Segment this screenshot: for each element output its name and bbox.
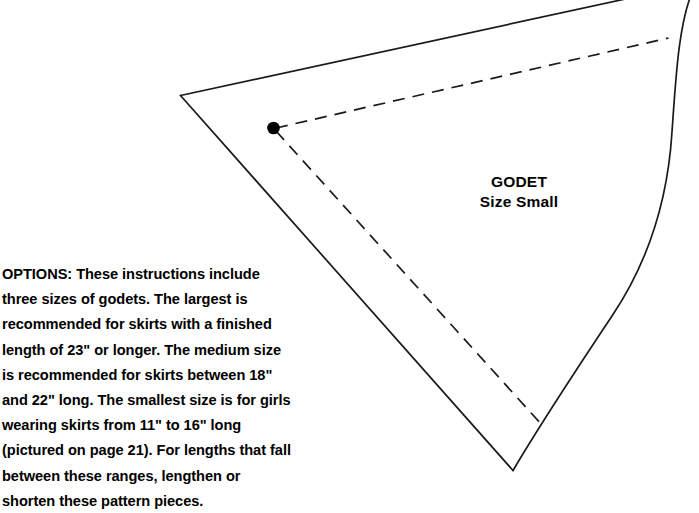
options-instructions-paragraph: OPTIONS: These instructions include thre… [2,262,294,513]
pattern-cutting-line-top-edge [181,0,699,96]
options-instructions-text: OPTIONS: These instructions include thre… [2,262,294,513]
pattern-piece-name: GODET [444,172,594,192]
pattern-stitch-line-upper [276,38,669,128]
pattern-piece-label: GODET Size Small [444,172,594,213]
pattern-match-point-dot [267,122,280,135]
pattern-cutting-line-hem-curve [513,0,693,471]
pattern-piece-size: Size Small [444,192,594,212]
